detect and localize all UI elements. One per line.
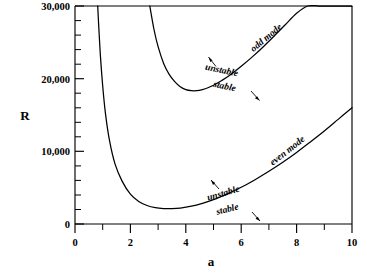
odd-mode-unstable-label: unstable xyxy=(204,62,239,79)
x-tick-label-10: 10 xyxy=(347,237,358,248)
odd-mode-stable-label: stable xyxy=(212,79,238,94)
odd-mode-stable-arrow-icon xyxy=(251,91,260,101)
y-tick-label-30000: 30,000 xyxy=(41,1,70,12)
y-tick-label-20000: 20,000 xyxy=(41,74,70,85)
y-axis-major-ticks xyxy=(75,6,84,224)
x-tick-label-8: 8 xyxy=(294,237,299,248)
x-tick-label-2: 2 xyxy=(128,237,133,248)
odd-mode-annotation-group: odd mode unstable stable xyxy=(204,21,284,100)
curve-even-mode xyxy=(98,6,352,209)
y-tick-label-10000: 10,000 xyxy=(41,146,70,157)
even-mode-annotation-group: even mode unstable stable xyxy=(206,133,307,221)
x-axis-minor-ticks xyxy=(103,224,325,230)
even-mode-unstable-label: unstable xyxy=(206,184,241,203)
y-axis-minor-ticks xyxy=(75,21,81,210)
x-tick-label-0: 0 xyxy=(72,237,77,248)
even-mode-label: even mode xyxy=(268,133,307,167)
odd-mode-label: odd mode xyxy=(248,21,284,53)
even-mode-stable-label: stable xyxy=(214,201,240,217)
y-tick-label-0: 0 xyxy=(65,219,70,230)
plot-area: 0 10,000 20,000 30,000 0 2 4 6 8 10 R a … xyxy=(0,0,367,275)
y-axis-title: R xyxy=(20,108,30,123)
x-tick-label-4: 4 xyxy=(183,237,189,248)
even-mode-stable-arrow-icon xyxy=(252,212,260,221)
x-tick-label-6: 6 xyxy=(239,237,244,248)
x-axis-title: a xyxy=(208,254,215,269)
stability-diagram-figure: 0 10,000 20,000 30,000 0 2 4 6 8 10 R a … xyxy=(0,0,367,275)
even-mode-unstable-arrow-icon xyxy=(211,180,219,189)
